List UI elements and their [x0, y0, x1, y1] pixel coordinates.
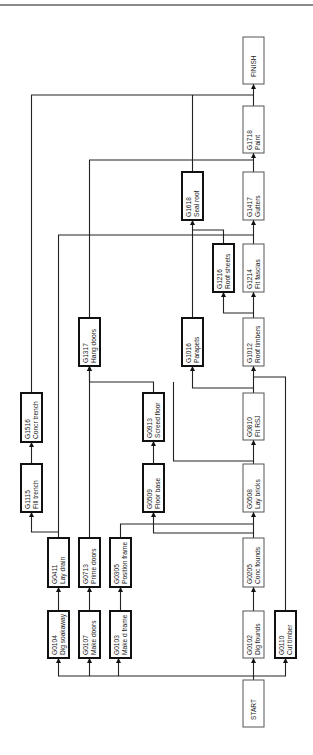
node-label: Lay bricks: [254, 479, 262, 509]
node-finish: FINISH: [243, 37, 264, 84]
edge-g1417-to-g1718: [251, 153, 256, 172]
node-label: Lay drain: [59, 557, 67, 584]
node-code: G0509: [146, 489, 153, 509]
node-g1516: G1516Concr trench: [21, 393, 42, 442]
edge-g1216-to-g1618: [193, 230, 224, 244]
node-g0205: G0205Conc founds: [243, 538, 264, 587]
node-g0509: G0509Floor base: [143, 464, 164, 512]
node-code: G1516: [24, 419, 31, 439]
edge-g0810-to-g1016: [190, 366, 254, 388]
edge-g1214-to-g1417: [251, 220, 256, 244]
node-label: Paint: [254, 135, 261, 150]
arrowhead-icon: [251, 220, 256, 225]
node-label: Cut timber: [286, 624, 293, 655]
edge-g0107-to-g0713: [87, 587, 92, 611]
arrowhead-icon: [251, 658, 256, 663]
node-label: Make d frame: [121, 614, 128, 655]
node-code: G0411: [51, 564, 58, 584]
node-g1214: G1214Fit fascias: [243, 244, 264, 292]
node-g1115: G1115Fill trench: [21, 464, 42, 512]
edge-g0102-to-g0205: [251, 587, 256, 611]
node-code: G0205: [246, 564, 253, 584]
edge-g0508-to-g1317: [174, 382, 254, 461]
edge-g0104-to-g0411: [56, 587, 61, 611]
arrowhead-icon: [251, 153, 256, 158]
node-label: Fit fascias: [254, 259, 261, 289]
edge-g0509-to-g0913: [151, 441, 156, 464]
node-label: Conc founds: [254, 546, 261, 584]
node-label: Dig soakaway: [59, 613, 67, 655]
node-g0110: G0110Cut timber: [275, 611, 296, 658]
node-label: Make doors: [90, 620, 97, 655]
edge-g0508-to-g0810: [251, 440, 256, 464]
node-code: G0104: [51, 635, 58, 655]
node-code: FINISH: [250, 55, 257, 77]
node-g0305: G0305Position frame: [110, 538, 131, 587]
arrowhead-icon: [251, 587, 256, 592]
node-g0104: G0104Dig soakaway: [48, 611, 69, 658]
node-label: Fill trench: [32, 480, 39, 509]
node-code: G1012: [246, 343, 253, 363]
node-label: Hang doors: [90, 328, 98, 363]
node-label: Floor base: [154, 478, 161, 509]
node-code: G1317: [82, 343, 89, 363]
node-code: G1216: [216, 269, 223, 289]
node-g0913: G0913Screed floor: [143, 393, 164, 441]
node-label: Parapets: [193, 336, 201, 363]
edge-start-to-g0107: [87, 658, 92, 676]
node-g1317: G1317Hang doors: [79, 318, 100, 366]
node-g1216: G1216Roof sheets: [213, 244, 234, 292]
node-g0107: G0107Make doors: [79, 611, 100, 658]
node-g1718: G1718Paint: [243, 106, 264, 153]
node-g0102: G0102Dig founds: [243, 611, 264, 658]
edge-g0205-to-g0509: [151, 512, 254, 533]
node-code: G0305: [113, 564, 120, 584]
edge-g0103-to-g0305: [118, 587, 123, 611]
node-code: G1718: [246, 130, 253, 150]
node-code: G0102: [246, 635, 253, 655]
arrowhead-icon: [251, 512, 256, 517]
node-label: Prime doors: [90, 548, 97, 584]
node-start: START: [243, 680, 264, 727]
edge-start-to-g0110: [254, 658, 289, 676]
edge-g1012-to-g1216: [221, 292, 254, 313]
arrowhead-icon: [251, 84, 256, 89]
node-label: Dig founds: [254, 623, 262, 655]
node-label: Seal roof: [193, 190, 200, 217]
edge-g0913-to-g1317: [87, 366, 154, 393]
node-label: Concr trench: [32, 401, 39, 439]
edge-g0305-to-g0508: [121, 524, 254, 538]
edge-start-to-g0102: [251, 658, 256, 680]
arrowhead-icon: [251, 292, 256, 297]
node-code: G1417: [246, 197, 253, 217]
node-g1618: G1618Seal roof: [182, 172, 203, 220]
node-code: G1016: [185, 343, 192, 363]
node-g0810: G0810Fit RSJ: [243, 393, 264, 440]
edge-start-to-g0104: [56, 658, 254, 676]
node-code: G1214: [246, 269, 253, 289]
node-g1012: G1012Roof timbers: [243, 318, 264, 366]
network-diagram: STARTG0104Dig soakawayG0107Make doorsG01…: [0, 0, 313, 755]
node-code: G0713: [82, 564, 89, 584]
node-code: G0110: [278, 635, 285, 655]
node-label: Fit RSJ: [254, 415, 261, 437]
node-label: Position frame: [121, 542, 128, 584]
edge-g0713-to-g1317: [87, 366, 92, 538]
edge-g0205-to-g0508: [251, 512, 256, 538]
node-code: START: [250, 699, 257, 720]
node-code: G1618: [185, 197, 192, 217]
node-code: G0508: [246, 489, 253, 509]
node-g0508: G0508Lay bricks: [243, 464, 264, 512]
node-code: G1115: [24, 490, 31, 509]
arrowhead-icon: [251, 440, 256, 445]
arrowhead-icon: [251, 366, 256, 371]
node-code: G0810: [246, 417, 253, 437]
node-code: G0103: [113, 635, 120, 655]
node-g0411: G0411Lay drain: [48, 538, 69, 587]
node-label: Roof sheets: [224, 253, 231, 289]
nodes-layer: STARTG0104Dig soakawayG0107Make doorsG01…: [21, 37, 296, 727]
edge-g1115-to-g1516: [29, 442, 34, 464]
node-code: G0107: [82, 635, 89, 655]
node-g0103: G0103Make d frame: [110, 611, 131, 658]
node-g0713: G0713Prime doors: [79, 538, 100, 587]
